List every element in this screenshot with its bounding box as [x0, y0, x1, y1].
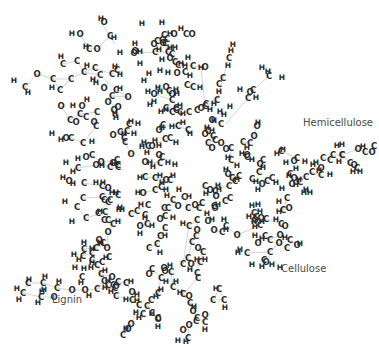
atom-h: H: [327, 170, 333, 179]
atom-h: H: [137, 59, 143, 68]
atom-c: C: [371, 141, 377, 151]
atom-h: H: [70, 179, 76, 188]
atom-c: C: [128, 209, 134, 219]
atom-h: H: [69, 217, 75, 226]
atom-h: H: [137, 229, 143, 238]
label-lignin: Lignin: [52, 294, 82, 305]
atom-h: H: [162, 231, 168, 240]
atom-h: H: [62, 197, 68, 206]
atom-c: C: [89, 150, 95, 160]
atom-h: H: [163, 185, 169, 194]
atom-c: C: [80, 138, 86, 148]
atom-c: C: [93, 121, 99, 131]
atom-c: C: [210, 295, 216, 305]
atom-c: C: [216, 284, 222, 294]
atom-h: H: [16, 295, 22, 304]
atom-h: H: [183, 337, 189, 346]
atom-c: C: [80, 193, 86, 203]
atom-c: C: [145, 200, 151, 210]
atom-c: C: [155, 313, 161, 323]
atom-h: H: [221, 215, 227, 224]
atom-c: C: [25, 278, 31, 288]
atom-h: H: [151, 97, 157, 106]
atom-h: H: [301, 188, 307, 197]
atom-h: H: [113, 113, 119, 122]
atom-o: O: [33, 69, 40, 79]
atom-o: O: [104, 227, 111, 237]
atom-h: H: [155, 322, 161, 331]
atom-h: H: [49, 129, 55, 138]
atom-o: O: [124, 92, 131, 102]
label-cellulose: Cellulose: [281, 263, 326, 274]
atom-h: H: [215, 200, 221, 209]
atom-c: C: [219, 227, 225, 237]
atom-h: H: [158, 107, 164, 116]
atom-o: O: [201, 310, 208, 320]
atom-c: C: [149, 308, 155, 318]
atom-o: O: [281, 221, 288, 231]
atom-h: H: [11, 76, 17, 85]
atom-c: C: [165, 203, 171, 213]
atom-o: O: [124, 324, 131, 334]
atom-o: O: [173, 68, 180, 78]
atom-c: C: [86, 44, 92, 54]
atom-h: H: [63, 158, 69, 167]
atom-c: C: [266, 71, 272, 81]
atom-c: C: [185, 203, 191, 213]
atom-c: C: [186, 221, 192, 231]
atom-c: C: [68, 133, 74, 143]
atom-h: H: [283, 158, 289, 167]
atom-h: H: [119, 205, 125, 214]
atom-h: H: [102, 266, 108, 275]
atom-h: H: [175, 336, 181, 345]
atom-c: C: [362, 147, 368, 157]
atom-h: H: [237, 85, 243, 94]
atom-c: C: [339, 150, 345, 160]
atom-h: H: [25, 88, 31, 97]
atom-o: O: [170, 29, 177, 39]
atom-h: H: [89, 137, 95, 146]
atom-h: H: [339, 140, 345, 149]
atom-h: H: [133, 308, 139, 317]
atom-c: C: [105, 215, 111, 225]
atom-h: H: [173, 138, 179, 147]
atom-c: C: [154, 239, 160, 249]
atom-h: H: [117, 84, 123, 93]
atom-o: O: [100, 17, 107, 27]
atom-h: H: [117, 70, 123, 79]
atom-c: C: [106, 252, 112, 262]
atom-c: C: [256, 167, 262, 177]
atom-o: O: [204, 216, 211, 226]
atom-c: C: [81, 178, 87, 188]
atom-h: H: [139, 19, 145, 28]
atom-c: C: [81, 67, 87, 77]
atom-h: H: [186, 192, 192, 201]
atom-h: H: [174, 89, 180, 98]
atom-c: C: [195, 273, 201, 283]
atom-c: C: [94, 107, 100, 117]
atom-c: C: [194, 215, 200, 225]
atom-h: H: [76, 255, 82, 264]
atom-h: H: [221, 110, 227, 119]
atom-o: O: [139, 188, 146, 198]
atom-o: O: [68, 285, 75, 295]
atom-o: O: [93, 44, 100, 54]
atom-c: C: [168, 267, 174, 277]
atom-o: O: [127, 149, 134, 159]
atom-h: H: [86, 291, 92, 300]
atom-h: H: [84, 95, 90, 104]
atom-h: H: [165, 158, 171, 167]
atom-h: H: [115, 217, 121, 226]
atom-h: H: [146, 69, 152, 78]
atom-c: C: [50, 74, 56, 84]
atom-c: C: [197, 257, 203, 267]
atom-h: H: [93, 78, 99, 87]
atom-c: C: [142, 172, 148, 182]
atom-c: C: [228, 143, 234, 153]
atom-h: H: [211, 116, 217, 125]
atom-o: O: [179, 325, 186, 335]
atom-h: H: [222, 303, 228, 312]
atom-h: H: [58, 135, 64, 144]
atom-c: C: [164, 34, 170, 44]
atom-c: C: [107, 195, 113, 205]
